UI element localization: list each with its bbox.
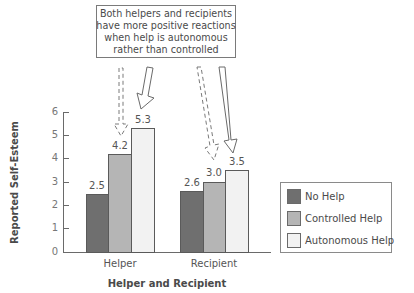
legend-label: Controlled Help [305, 213, 382, 224]
bar-value-label: 2.5 [82, 180, 112, 191]
legend-label: No Help [305, 191, 345, 202]
bar-chart: Both helpers and recipients have more po… [0, 0, 414, 293]
bar-value-label: 3.5 [222, 156, 252, 167]
y-tick-label: 0 [44, 246, 58, 257]
solid-arrow-icon [137, 67, 154, 109]
dashed-arrow-icon [197, 67, 219, 160]
legend-swatch [287, 189, 301, 204]
dashed-arrow-icon [114, 68, 128, 136]
y-tick-label: 5 [44, 129, 58, 140]
bar-value-label: 3.0 [199, 167, 229, 178]
x-axis-title: Helper and Recipient [63, 278, 271, 289]
y-tick-label: 3 [44, 176, 58, 187]
x-category-label: Helper [80, 258, 160, 269]
y-axis-title: Reported Self-Esteem [4, 120, 24, 245]
y-tick-label: 1 [44, 222, 58, 233]
y-axis-title-text: Reported Self-Esteem [9, 121, 20, 244]
bar-helper-no-help [86, 194, 109, 253]
legend-swatch [287, 211, 301, 226]
bar-recipient-no-help [180, 191, 204, 253]
bar-value-label: 5.3 [128, 114, 158, 125]
x-category-label: Recipient [174, 258, 254, 269]
bar-recipient-controlled-help [203, 182, 226, 253]
y-tick-label: 6 [44, 106, 58, 117]
bar-value-label: 2.6 [177, 177, 207, 188]
legend-item-no-help: No Help [287, 188, 345, 204]
legend-item-controlled-help: Controlled Help [287, 210, 382, 226]
solid-arrow-icon [219, 67, 237, 153]
legend-item-autonomous-help: Autonomous Help [287, 232, 394, 248]
legend: No Help Controlled Help Autonomous Help [280, 182, 392, 253]
legend-swatch [287, 233, 301, 248]
bar-value-label: 4.2 [105, 140, 135, 151]
bar-recipient-autonomous-help [225, 170, 249, 253]
y-tick-label: 2 [44, 199, 58, 210]
bar-helper-controlled-help [108, 154, 132, 253]
legend-label: Autonomous Help [305, 235, 394, 246]
y-tick-label: 4 [44, 152, 58, 163]
